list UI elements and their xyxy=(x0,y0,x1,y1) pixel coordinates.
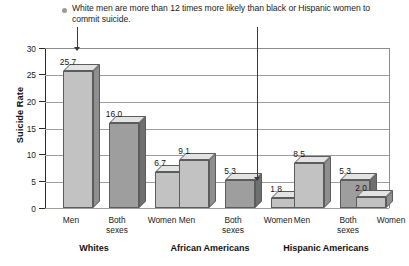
y-tick-10: 10 xyxy=(0,150,36,160)
bar-front-face xyxy=(356,197,386,208)
bar-value-whites-men: 25.7 xyxy=(48,57,88,67)
callout-arrow-whites-men xyxy=(74,47,80,51)
bar-front-face xyxy=(63,71,93,208)
plot-area xyxy=(45,48,390,208)
category-label-line2: sexes xyxy=(337,225,359,235)
category-label-whites-both-sexes: Both sexes xyxy=(94,216,140,236)
y-tick-5: 5 xyxy=(0,177,36,187)
bar-value-hispanic-americans-both-sexes: 5.3 xyxy=(325,166,365,176)
bar-side-face xyxy=(93,64,100,208)
y-tick-25: 25 xyxy=(0,70,36,80)
category-label-hispanic-americans-both-sexes: Both sexes xyxy=(325,216,371,236)
bar-front-face xyxy=(294,163,324,208)
category-label-line1: Both xyxy=(339,215,356,225)
group-label-hispanic-americans: Hispanic Americans xyxy=(256,243,396,253)
bar-value-hispanic-americans-women: 2.0 xyxy=(341,183,381,193)
y-tick-30: 30 xyxy=(0,44,36,54)
bullet-dot-icon xyxy=(62,8,67,13)
annotation-text: White men are more than 12 times more li… xyxy=(72,3,392,26)
y-tick-15: 15 xyxy=(0,124,36,134)
bar-value-whites-women: 6.7 xyxy=(140,158,180,168)
category-label-line1: Both xyxy=(108,215,125,225)
bar-value-african-americans-women: 1.8 xyxy=(256,184,296,194)
bar-value-whites-both-sexes: 16.0 xyxy=(94,109,134,119)
bar-side-face xyxy=(324,156,331,208)
bar-value-hispanic-americans-men: 8.5 xyxy=(279,149,319,159)
bar-hispanic-americans-women[interactable] xyxy=(356,197,386,208)
category-label-line2: sexes xyxy=(106,225,128,235)
category-label-whites-men: Men xyxy=(48,216,94,226)
bar-hispanic-americans-men[interactable] xyxy=(294,163,324,208)
bar-side-face xyxy=(209,153,216,208)
category-label-line2: sexes xyxy=(222,225,244,235)
chart-annotation: White men are more than 12 times more li… xyxy=(62,3,392,26)
category-label-line1: Both xyxy=(224,215,241,225)
callout-arrow-african-american-women xyxy=(254,177,260,181)
bar-value-african-americans-men: 9.1 xyxy=(164,146,204,156)
bar-front-face xyxy=(179,160,209,208)
bar-whites-both-sexes[interactable] xyxy=(109,123,139,208)
y-tick-0: 0 xyxy=(0,204,36,214)
bar-value-african-americans-both-sexes: 5.3 xyxy=(210,166,250,176)
bar-whites-men[interactable] xyxy=(63,71,93,208)
bar-african-americans-men[interactable] xyxy=(179,160,209,208)
category-label-hispanic-americans-men: Men xyxy=(279,216,325,226)
callout-connector-african-american-women xyxy=(257,27,258,177)
category-label-african-americans-both-sexes: Both sexes xyxy=(210,216,256,236)
bar-african-americans-both-sexes[interactable] xyxy=(225,180,255,208)
bar-front-face xyxy=(225,180,255,208)
category-label-hispanic-americans-women: Women xyxy=(368,216,409,226)
category-label-african-americans-men: Men xyxy=(164,216,210,226)
callout-connector-whites-men xyxy=(77,27,78,47)
y-tick-20: 20 xyxy=(0,97,36,107)
gridline-0 xyxy=(45,208,389,209)
y-axis-tick-labels: 30 25 20 15 10 5 0 xyxy=(0,0,36,266)
bar-front-face xyxy=(109,123,139,208)
